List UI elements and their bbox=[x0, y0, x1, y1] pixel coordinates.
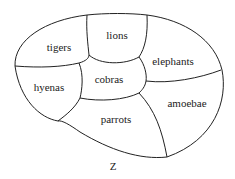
region-label-lions: lions bbox=[106, 29, 127, 41]
border-lions-cobras bbox=[89, 55, 139, 63]
border-cobras-parrots bbox=[80, 93, 139, 100]
region-label-cobras: cobras bbox=[95, 73, 124, 85]
border-tigers-lions bbox=[79, 15, 89, 63]
region-label-parrots: parrots bbox=[101, 113, 132, 125]
border-lions-elephants bbox=[139, 15, 147, 57]
border-parrots-amoebae bbox=[139, 93, 167, 157]
border-hyenas-parrots bbox=[58, 98, 80, 121]
border-tigers-hyenas bbox=[15, 63, 79, 67]
border-cobras-amoebae bbox=[139, 81, 146, 93]
border-cobras-elephants bbox=[139, 57, 146, 81]
border-hyenas-cobras bbox=[79, 63, 82, 98]
region-label-hyenas: hyenas bbox=[34, 81, 65, 93]
region-label-elephants: elephants bbox=[152, 55, 194, 67]
region-label-tigers: tigers bbox=[47, 41, 71, 53]
border-elephants-amoebae bbox=[146, 70, 221, 82]
diagram-caption: Z bbox=[110, 160, 117, 172]
region-label-amoebae: amoebae bbox=[167, 97, 206, 109]
